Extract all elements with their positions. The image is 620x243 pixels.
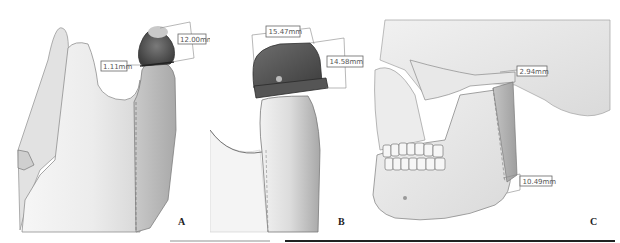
bottom-strip <box>285 240 615 242</box>
screw-hole <box>276 76 282 82</box>
panel-a: 12.00mm 1.11mm A <box>0 0 210 243</box>
panel-letter: A <box>178 216 186 227</box>
svg-text:12.00mm: 12.00mm <box>180 36 210 44</box>
condylar-neck <box>260 96 320 232</box>
measurement-label: 14.58mm <box>327 56 363 67</box>
measurement-label: 15.47mm <box>266 26 302 37</box>
panel-letter: B <box>338 216 345 227</box>
panel-a-illustration: 12.00mm 1.11mm A <box>0 0 210 243</box>
panel-b: 15.47mm 14.58mm B <box>210 0 365 243</box>
panel-b-illustration: 15.47mm 14.58mm B <box>210 0 365 243</box>
measurement-label: 2.94mm <box>517 66 549 76</box>
condyle-top <box>148 26 168 38</box>
measurement-label: 10.49mm <box>520 176 556 186</box>
svg-text:15.47mm: 15.47mm <box>269 28 303 36</box>
ramus-side <box>134 62 176 232</box>
panel-c: 2.94mm 10.49mm C <box>365 0 620 243</box>
sigmoid-notch <box>210 130 268 232</box>
svg-text:10.49mm: 10.49mm <box>523 178 557 186</box>
panel-c-illustration: 2.94mm 10.49mm C <box>365 0 620 243</box>
svg-text:2.94mm: 2.94mm <box>520 68 549 76</box>
panel-letter: C <box>590 216 597 227</box>
measurement-label: 1.11mm <box>101 61 132 71</box>
measurement-label: 12.00mm <box>178 34 210 44</box>
svg-text:14.58mm: 14.58mm <box>330 58 364 66</box>
bottom-strip-light <box>170 240 270 242</box>
mental-foramen <box>403 196 407 200</box>
svg-text:1.11mm: 1.11mm <box>103 63 132 71</box>
